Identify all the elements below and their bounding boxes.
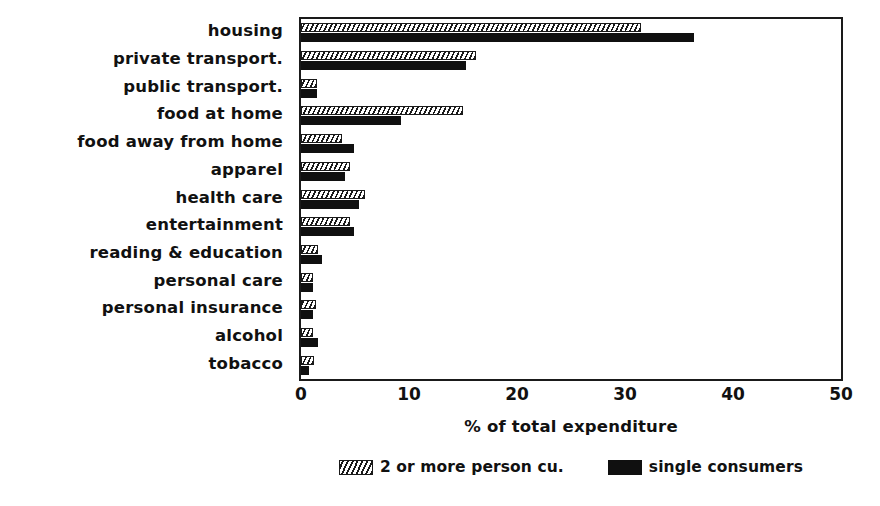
- category-label: food at home: [157, 106, 283, 123]
- bar-solid: [301, 33, 694, 42]
- category-label: reading & education: [90, 245, 283, 262]
- bar-hatched: [301, 356, 314, 365]
- bar-solid: [301, 283, 313, 292]
- bar-solid: [301, 61, 466, 70]
- legend-entry-hatched: 2 or more person cu.: [339, 458, 564, 476]
- bar-group: [301, 51, 841, 70]
- category-label: private transport.: [113, 51, 283, 68]
- category-label: personal care: [154, 273, 283, 290]
- category-label: alcohol: [215, 328, 283, 345]
- bar-group: [301, 190, 841, 209]
- hatched-swatch-icon: [339, 460, 373, 475]
- bar-group: [301, 23, 841, 42]
- bar-solid: [301, 338, 318, 347]
- solid-swatch-icon: [608, 460, 642, 475]
- bar-hatched: [301, 328, 313, 337]
- bar-chart: housingprivate transport.public transpor…: [0, 0, 880, 506]
- bar-group: [301, 162, 841, 181]
- bar-hatched: [301, 23, 641, 32]
- bar-hatched: [301, 106, 463, 115]
- bar-hatched: [301, 51, 476, 60]
- bar-group: [301, 245, 841, 264]
- bar-solid: [301, 200, 359, 209]
- category-label: entertainment: [146, 217, 283, 234]
- category-label: personal insurance: [102, 300, 283, 317]
- bar-hatched: [301, 190, 365, 199]
- bar-solid: [301, 310, 313, 319]
- bar-group: [301, 273, 841, 292]
- bar-solid: [301, 227, 354, 236]
- bar-group: [301, 217, 841, 236]
- category-label: food away from home: [77, 134, 283, 151]
- category-label: public transport.: [123, 79, 283, 96]
- legend-label-hatched: 2 or more person cu.: [380, 458, 564, 476]
- bar-hatched: [301, 245, 318, 254]
- x-axis-tick-labels: 01020304050: [299, 386, 843, 408]
- x-tick-label: 0: [295, 386, 307, 403]
- bars-layer: [301, 19, 841, 379]
- bar-solid: [301, 116, 401, 125]
- category-label: tobacco: [209, 356, 283, 373]
- x-tick-label: 50: [829, 386, 853, 403]
- chart-legend: 2 or more person cu. single consumers: [299, 458, 843, 476]
- x-tick-label: 30: [613, 386, 637, 403]
- bar-hatched: [301, 79, 317, 88]
- bar-solid: [301, 89, 317, 98]
- bar-group: [301, 356, 841, 375]
- x-axis-title: % of total expenditure: [299, 417, 843, 436]
- bar-group: [301, 300, 841, 319]
- x-tick-label: 20: [505, 386, 529, 403]
- bar-group: [301, 328, 841, 347]
- category-label: housing: [208, 23, 283, 40]
- category-label: health care: [175, 190, 283, 207]
- bar-solid: [301, 366, 309, 375]
- bar-hatched: [301, 273, 313, 282]
- bar-group: [301, 79, 841, 98]
- bar-solid: [301, 172, 345, 181]
- category-axis-labels: housingprivate transport.public transpor…: [0, 18, 291, 380]
- legend-entry-solid: single consumers: [608, 458, 803, 476]
- legend-label-solid: single consumers: [649, 458, 803, 476]
- x-tick-label: 10: [397, 386, 421, 403]
- bar-solid: [301, 144, 354, 153]
- bar-hatched: [301, 300, 316, 309]
- bar-hatched: [301, 134, 342, 143]
- bar-group: [301, 106, 841, 125]
- x-tick-label: 40: [721, 386, 745, 403]
- bar-hatched: [301, 162, 350, 171]
- category-label: apparel: [211, 162, 283, 179]
- bar-group: [301, 134, 841, 153]
- bar-hatched: [301, 217, 350, 226]
- bar-solid: [301, 255, 322, 264]
